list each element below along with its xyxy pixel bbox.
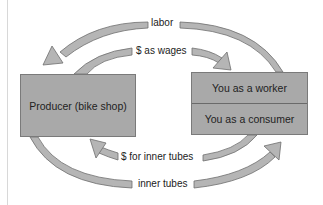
consumer-section: You as a consumer bbox=[192, 104, 307, 135]
household-box: You as a worker You as a consumer bbox=[191, 72, 308, 135]
money-for-tubes-flow-label: $ for inner tubes bbox=[120, 151, 194, 163]
labor-flow-label: labor bbox=[150, 17, 174, 29]
producer-box: Producer (bike shop) bbox=[20, 74, 136, 137]
inner-tubes-flow-label: inner tubes bbox=[137, 178, 188, 190]
worker-label: You as a worker bbox=[212, 82, 287, 94]
worker-section: You as a worker bbox=[192, 73, 307, 104]
consumer-label: You as a consumer bbox=[205, 113, 295, 125]
producer-label: Producer (bike shop) bbox=[29, 100, 126, 112]
wages-flow-label: $ as wages bbox=[135, 45, 188, 57]
